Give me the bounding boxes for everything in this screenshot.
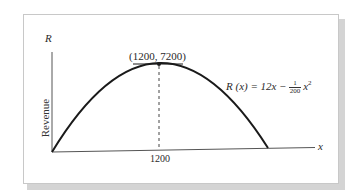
function-fraction: 1200 xyxy=(289,80,302,95)
x-axis-letter: x xyxy=(318,141,323,152)
function-exponent: 2 xyxy=(308,79,312,87)
x-tick-label: 1200 xyxy=(150,154,170,164)
y-axis-title: Revenue xyxy=(39,99,51,137)
x-axis xyxy=(52,148,315,153)
vertex-label: (1200, 7200) xyxy=(129,51,186,62)
y-axis-letter: R xyxy=(45,33,52,44)
vertex-point xyxy=(157,62,161,66)
function-label: R (x) = 12x −1200x2 xyxy=(226,80,312,95)
function-lhs: R (x) = 12x − xyxy=(226,80,287,92)
revenue-curve xyxy=(52,63,268,152)
fraction-denominator: 200 xyxy=(289,88,302,95)
revenue-plot xyxy=(0,0,362,195)
